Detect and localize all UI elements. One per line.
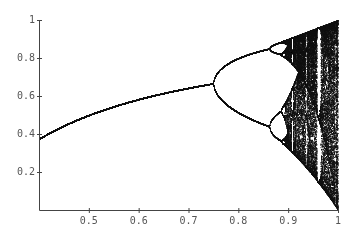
y-tick-label: 0.2 (17, 167, 35, 177)
x-tick-label: 0.5 (80, 216, 98, 226)
bifurcation-plot (0, 0, 357, 236)
x-tick-label: 0.9 (279, 216, 297, 226)
y-tick-label: 0.6 (17, 91, 35, 101)
x-tick-label: 0.8 (229, 216, 247, 226)
y-tick-label: 0.4 (17, 129, 35, 139)
x-tick-label: 0.7 (180, 216, 198, 226)
x-tick-label: 1 (335, 216, 341, 226)
y-tick-label: 0.8 (17, 53, 35, 63)
y-tick-label: 1 (29, 15, 35, 25)
x-tick-label: 0.6 (130, 216, 148, 226)
